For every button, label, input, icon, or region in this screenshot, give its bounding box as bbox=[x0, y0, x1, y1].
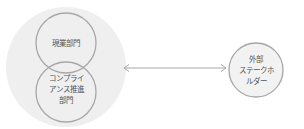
compliance-department-label: コンプライ アンス推進 部門 bbox=[49, 73, 84, 106]
compliance-label-line-3: 部門 bbox=[49, 95, 84, 106]
operations-department-label: 現業部門 bbox=[52, 38, 80, 49]
external-stakeholders-label: 外部 ステークホ ルダー bbox=[239, 54, 274, 87]
compliance-label-line-1: コンプライ bbox=[49, 73, 84, 84]
internal-organization-background bbox=[6, 7, 126, 127]
stakeholders-label-line-1: 外部 bbox=[239, 54, 274, 65]
stakeholders-label-line-3: ルダー bbox=[239, 76, 274, 87]
compliance-label-line-2: アンス推進 bbox=[49, 84, 84, 95]
bidirectional-arrow-icon bbox=[124, 65, 226, 72]
stakeholders-label-line-2: ステークホ bbox=[239, 65, 274, 76]
